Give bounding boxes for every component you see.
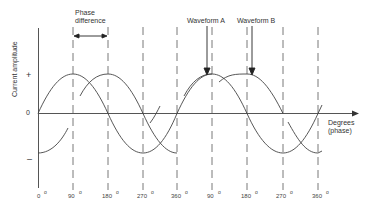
- tick-label: 90: [68, 193, 75, 199]
- tick-label: 180: [102, 193, 112, 199]
- waveform-b-pointer-arrow: [249, 26, 255, 75]
- waveform-b-curve-5: [219, 74, 283, 114]
- degree-symbol: o: [116, 189, 119, 195]
- y-minus-marker: –: [27, 155, 32, 163]
- phase-difference-label-line2: difference: [75, 17, 106, 25]
- tick-label: 0: [37, 193, 40, 199]
- y-plus-marker: +: [26, 71, 31, 79]
- tick-label: 360: [171, 193, 181, 199]
- degree-symbol: o: [185, 189, 188, 195]
- degree-symbol: o: [44, 189, 47, 195]
- degree-symbol: o: [151, 189, 154, 195]
- x-axis-label-line2: (phase): [328, 127, 352, 135]
- phase-diagram: [0, 0, 376, 211]
- tick-label: 270: [276, 193, 286, 199]
- degree-symbol: o: [218, 189, 221, 195]
- degree-symbol: o: [79, 189, 82, 195]
- waveform-a-pointer-arrow: [204, 26, 210, 75]
- phase-difference-arrow: [74, 34, 107, 38]
- tick-label: 180: [241, 193, 251, 199]
- waveform-b-label: Waveform B: [237, 17, 275, 25]
- waveform-b-curve-3: [150, 106, 160, 123]
- x-axis-arrow-icon: [352, 111, 359, 117]
- tick-label: 90: [207, 193, 214, 199]
- phase-difference-label-line1: Phase: [75, 9, 95, 17]
- y-zero-marker: 0: [26, 109, 30, 117]
- waveform-b-curve: [38, 128, 68, 153]
- degree-symbol: o: [326, 189, 329, 195]
- tick-label: 360: [312, 193, 322, 199]
- waveform-a-label: Waveform A: [187, 17, 225, 25]
- y-axis-label: Current amplitude: [11, 41, 18, 97]
- phase-gridlines: [73, 27, 318, 190]
- degree-symbol: o: [255, 189, 258, 195]
- degree-symbol: o: [290, 189, 293, 195]
- x-axis-label-line1: Degrees: [328, 119, 354, 127]
- tick-label: 270: [137, 193, 147, 199]
